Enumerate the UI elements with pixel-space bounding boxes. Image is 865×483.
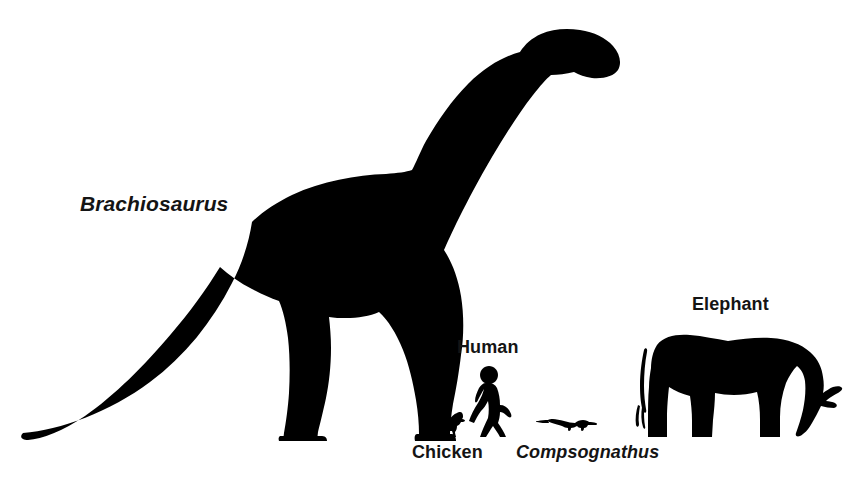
- image-canvas: Brachiosaurus Human Elephant Chicken Com…: [0, 0, 865, 483]
- label-elephant: Elephant: [692, 295, 769, 313]
- silhouette-scene: [0, 0, 865, 483]
- label-chicken: Chicken: [412, 443, 483, 461]
- label-brachiosaurus: Brachiosaurus: [80, 193, 228, 214]
- label-compsognathus: Compsognathus: [516, 443, 659, 461]
- label-human: Human: [457, 338, 519, 356]
